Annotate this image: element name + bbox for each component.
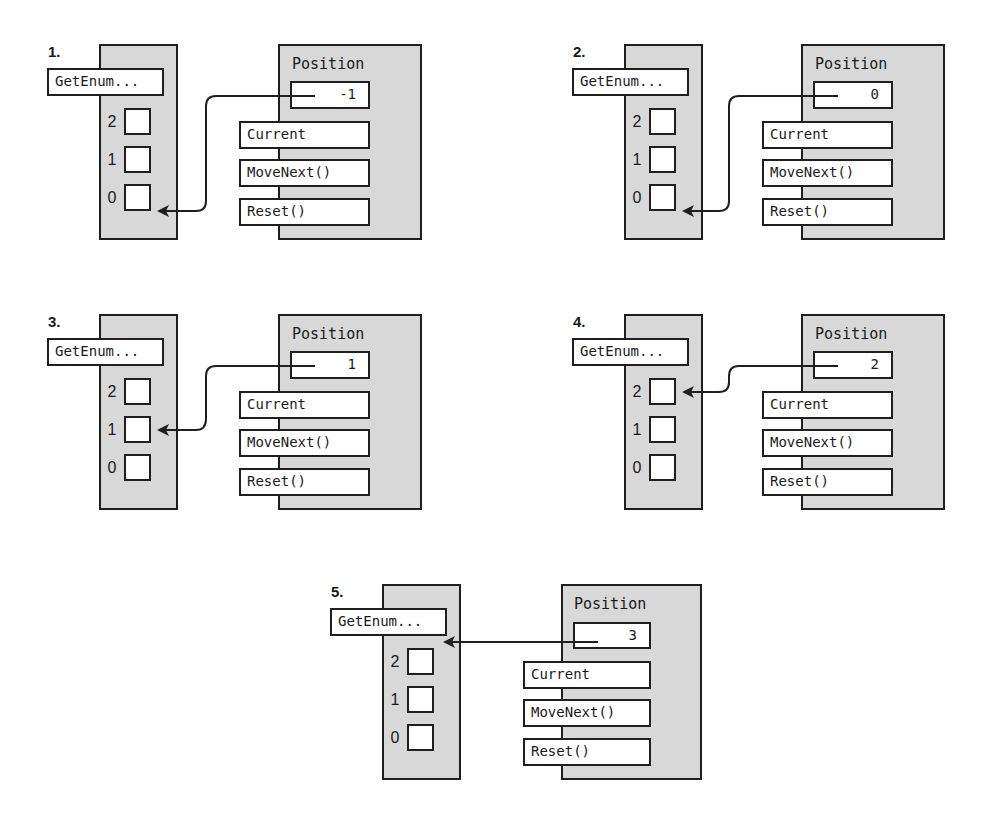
current-member-box: Current bbox=[762, 121, 893, 149]
movenext-member-box: MoveNext() bbox=[239, 429, 370, 457]
position-label: Position bbox=[815, 325, 887, 343]
slot-index-1: 1 bbox=[631, 151, 643, 169]
collection-slot-2 bbox=[407, 648, 434, 675]
collection-slot-1 bbox=[649, 416, 676, 443]
movenext-member-box: MoveNext() bbox=[239, 159, 370, 187]
step-number: 3. bbox=[48, 313, 61, 330]
slot-index-0: 0 bbox=[631, 189, 643, 207]
reset-member-box: Reset() bbox=[523, 738, 651, 766]
position-label: Position bbox=[574, 595, 646, 613]
step-panel-5: 5. GetEnum... 2 1 0 Position 3 Current M… bbox=[329, 581, 759, 814]
reset-member-box: Reset() bbox=[239, 198, 370, 226]
get-enumerator-box: GetEnum... bbox=[47, 338, 164, 366]
slot-index-2: 2 bbox=[631, 383, 643, 401]
slot-index-0: 0 bbox=[389, 729, 401, 747]
slot-index-2: 2 bbox=[389, 653, 401, 671]
collection-slot-1 bbox=[124, 416, 151, 443]
slot-index-0: 0 bbox=[106, 189, 118, 207]
collection-slot-1 bbox=[407, 686, 434, 713]
movenext-member-box: MoveNext() bbox=[523, 699, 651, 727]
reset-member-box: Reset() bbox=[762, 468, 893, 496]
slot-index-0: 0 bbox=[631, 459, 643, 477]
current-member-box: Current bbox=[762, 391, 893, 419]
slot-index-1: 1 bbox=[106, 151, 118, 169]
step-panel-1: 1. GetEnum... 2 1 0 Position -1 Current … bbox=[46, 41, 476, 281]
position-label: Position bbox=[292, 325, 364, 343]
collection-slot-0 bbox=[649, 184, 676, 211]
step-panel-2: 2. GetEnum... 2 1 0 Position 0 Current M… bbox=[571, 41, 983, 281]
slot-index-0: 0 bbox=[106, 459, 118, 477]
get-enumerator-box: GetEnum... bbox=[47, 68, 164, 96]
get-enumerator-box: GetEnum... bbox=[572, 68, 689, 96]
slot-index-1: 1 bbox=[389, 691, 401, 709]
position-label: Position bbox=[815, 55, 887, 73]
current-member-box: Current bbox=[239, 121, 370, 149]
get-enumerator-box: GetEnum... bbox=[572, 338, 689, 366]
step-panel-3: 3. GetEnum... 2 1 0 Position 1 Current M… bbox=[46, 311, 476, 551]
step-number: 4. bbox=[573, 313, 586, 330]
collection-slot-1 bbox=[649, 146, 676, 173]
movenext-member-box: MoveNext() bbox=[762, 159, 893, 187]
collection-slot-2 bbox=[649, 108, 676, 135]
collection-slot-2 bbox=[124, 108, 151, 135]
slot-index-1: 1 bbox=[106, 421, 118, 439]
slot-index-2: 2 bbox=[106, 383, 118, 401]
collection-slot-2 bbox=[649, 378, 676, 405]
collection-slot-1 bbox=[124, 146, 151, 173]
step-panel-4: 4. GetEnum... 2 1 0 Position 2 Current M… bbox=[571, 311, 983, 551]
position-value-box: 2 bbox=[813, 351, 893, 379]
step-number: 1. bbox=[48, 43, 61, 60]
step-number: 5. bbox=[331, 583, 344, 600]
reset-member-box: Reset() bbox=[762, 198, 893, 226]
position-label: Position bbox=[292, 55, 364, 73]
collection-slot-0 bbox=[407, 724, 434, 751]
position-value-box: 1 bbox=[290, 351, 370, 379]
slot-index-1: 1 bbox=[631, 421, 643, 439]
collection-slot-0 bbox=[124, 184, 151, 211]
collection-slot-2 bbox=[124, 378, 151, 405]
position-value-box: -1 bbox=[290, 81, 370, 109]
slot-index-2: 2 bbox=[631, 113, 643, 131]
position-value-box: 0 bbox=[813, 81, 893, 109]
collection-slot-0 bbox=[124, 454, 151, 481]
current-member-box: Current bbox=[523, 661, 651, 689]
position-value-box: 3 bbox=[573, 622, 651, 649]
reset-member-box: Reset() bbox=[239, 468, 370, 496]
movenext-member-box: MoveNext() bbox=[762, 429, 893, 457]
collection-slot-0 bbox=[649, 454, 676, 481]
current-member-box: Current bbox=[239, 391, 370, 419]
step-number: 2. bbox=[573, 43, 586, 60]
slot-index-2: 2 bbox=[106, 113, 118, 131]
get-enumerator-box: GetEnum... bbox=[330, 608, 447, 636]
